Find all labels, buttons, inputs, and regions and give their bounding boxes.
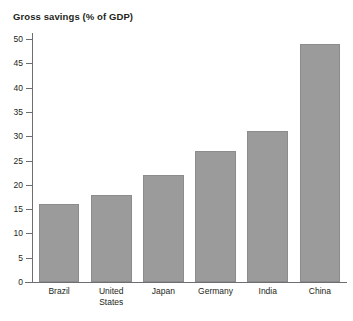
y-axis-tick-label: 5 xyxy=(0,254,23,263)
x-axis-category-label-line: China xyxy=(294,286,346,297)
x-axis-category-label-line: Japan xyxy=(137,286,189,297)
bar[interactable] xyxy=(300,44,341,282)
x-axis-category-label: China xyxy=(294,286,346,297)
y-axis-tick-label: 20 xyxy=(0,181,23,190)
x-axis-category-label-line: States xyxy=(85,297,137,308)
x-axis-category-label-line: Germany xyxy=(190,286,242,297)
bar-column[interactable] xyxy=(195,39,236,282)
y-axis-tick xyxy=(26,63,32,64)
y-axis-tick-label: 35 xyxy=(0,108,23,117)
y-axis-tick xyxy=(26,112,32,113)
y-axis-tick-label: 30 xyxy=(0,132,23,141)
y-axis-tick-label: 10 xyxy=(0,229,23,238)
x-axis-category-label: Germany xyxy=(190,286,242,297)
y-axis-tick xyxy=(26,39,32,40)
chart-title: Gross savings (% of GDP) xyxy=(13,11,133,22)
y-axis-tick xyxy=(26,185,32,186)
y-axis-tick-label: 15 xyxy=(0,205,23,214)
y-axis-tick xyxy=(26,233,32,234)
y-axis-tick xyxy=(26,161,32,162)
bar-column[interactable] xyxy=(143,39,184,282)
x-axis-category-label: Japan xyxy=(137,286,189,297)
y-axis-tick-label: 40 xyxy=(0,84,23,93)
bar-column[interactable] xyxy=(91,39,132,282)
y-axis-tick xyxy=(26,136,32,137)
x-axis-category-label: Brazil xyxy=(33,286,85,297)
y-axis-tick xyxy=(26,258,32,259)
bar-column[interactable] xyxy=(300,39,341,282)
bar[interactable] xyxy=(143,175,184,282)
chart-figure: Gross savings (% of GDP) 051015202530354… xyxy=(0,0,353,321)
x-axis-category-label-line: United xyxy=(85,286,137,297)
y-axis-tick-label: 0 xyxy=(0,278,23,287)
x-axis-category-label: UnitedStates xyxy=(85,286,137,307)
bar[interactable] xyxy=(91,195,132,282)
bar-column[interactable] xyxy=(39,39,80,282)
bar[interactable] xyxy=(39,204,80,282)
bar-column[interactable] xyxy=(247,39,288,282)
x-axis-line xyxy=(25,282,347,283)
x-axis-category-label: India xyxy=(242,286,294,297)
y-axis-tick xyxy=(26,282,32,283)
plot-area xyxy=(33,39,346,282)
y-axis-tick xyxy=(26,88,32,89)
bar[interactable] xyxy=(195,151,236,282)
x-axis-category-label-line: India xyxy=(242,286,294,297)
y-axis-tick xyxy=(26,209,32,210)
x-axis-category-label-line: Brazil xyxy=(33,286,85,297)
y-axis-tick-label: 50 xyxy=(0,35,23,44)
bar[interactable] xyxy=(247,131,288,282)
y-axis-tick-label: 25 xyxy=(0,157,23,166)
y-axis-tick-label: 45 xyxy=(0,59,23,68)
